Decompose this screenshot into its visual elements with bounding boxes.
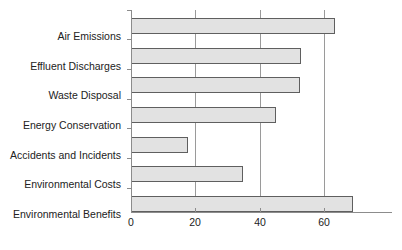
category-label-environmental-costs: Environmental Costs — [0, 178, 121, 190]
y-axis-line — [131, 10, 132, 212]
category-label-effluent-discharges: Effluent Discharges — [0, 60, 121, 72]
x-axis-label-20: 20 — [180, 216, 210, 228]
category-label-energy-conservation: Energy Conservation — [0, 119, 121, 131]
bar-accidents-and-incidents — [131, 137, 188, 153]
y-axis-tick — [127, 128, 131, 129]
x-axis-tick-0 — [131, 208, 132, 213]
x-axis-label-40: 40 — [245, 216, 275, 228]
category-label-air-emissions: Air Emissions — [0, 30, 121, 42]
bar-chart: Air Emissions Effluent Discharges Waste … — [0, 0, 402, 250]
bar-energy-conservation — [131, 107, 276, 123]
category-label-environmental-benefits: Environmental Benefits — [0, 208, 121, 220]
bar-environmental-benefits — [131, 196, 353, 212]
gridline-60 — [324, 10, 325, 212]
bar-air-emissions — [131, 18, 335, 34]
y-axis-tick — [127, 39, 131, 40]
bar-waste-disposal — [131, 77, 300, 93]
y-axis-tick — [127, 69, 131, 70]
y-axis-tick — [127, 99, 131, 100]
category-label-accidents-and-incidents: Accidents and Incidents — [0, 149, 121, 161]
category-label-waste-disposal: Waste Disposal — [0, 89, 121, 101]
x-axis-tick-40 — [260, 208, 261, 213]
category-axis-labels: Air Emissions Effluent Discharges Waste … — [0, 10, 127, 212]
y-axis-tick — [127, 188, 131, 189]
x-axis-tick-60 — [324, 208, 325, 213]
x-axis-tick-20 — [195, 208, 196, 213]
bar-effluent-discharges — [131, 48, 301, 64]
y-axis-tick — [127, 158, 131, 159]
x-axis-line — [131, 212, 392, 213]
y-axis-tick — [127, 10, 131, 11]
bar-environmental-costs — [131, 166, 243, 182]
plot-area — [131, 10, 372, 212]
x-axis-label-0: 0 — [116, 216, 146, 228]
x-axis-label-60: 60 — [309, 216, 339, 228]
